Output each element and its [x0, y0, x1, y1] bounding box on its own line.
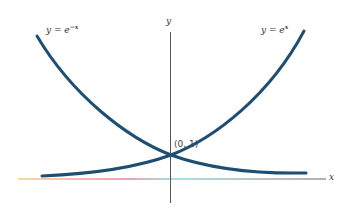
curve-exp-neg-x [37, 36, 306, 173]
curve-label-exp-x: y = ex [261, 23, 288, 35]
curve-label-exp-neg-x: y = e−x [46, 23, 78, 35]
curve-label-exp-x-base: y = e [261, 25, 285, 35]
y-axis-label: y [166, 16, 171, 26]
point-annotation: (0, 1) [174, 139, 198, 149]
curve-label-exp-x-exponent: x [285, 23, 289, 30]
x-axis-label: x [329, 172, 334, 182]
curve-label-exp-neg-x-base: y = e [46, 25, 70, 35]
curve-label-exp-neg-x-exponent: −x [70, 23, 79, 30]
